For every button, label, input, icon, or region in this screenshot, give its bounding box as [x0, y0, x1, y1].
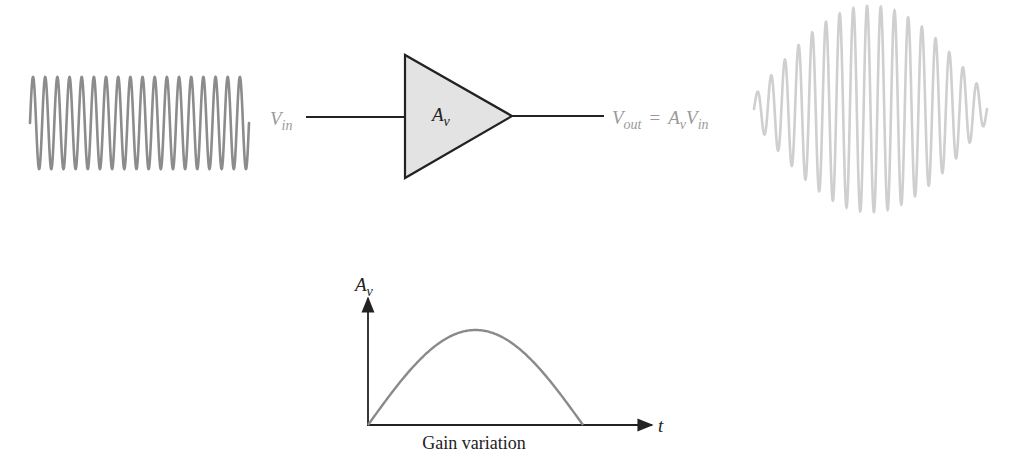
amplifier-gain-diagram: Vin Av Vout=AvVin Av t Gain variation	[0, 0, 1018, 459]
graph-caption: Gain variation	[422, 433, 525, 453]
y-label-main: A	[353, 274, 367, 295]
output-modulated-wave	[754, 6, 987, 212]
y-axis-label: Av	[353, 274, 374, 299]
y-label-sub: v	[367, 284, 374, 299]
amp-label-main: A	[430, 104, 444, 125]
rhs-gain-main: A	[666, 107, 680, 128]
output-voltage-equation: Vout=AvVin	[612, 107, 709, 132]
input-sine-wave	[30, 77, 249, 169]
amplifier-triangle	[405, 55, 512, 178]
gain-curve	[368, 330, 583, 425]
input-voltage-label: Vin	[270, 108, 293, 133]
gain-variation-graph: Av t Gain variation	[353, 274, 664, 453]
amp-label-sub: v	[444, 114, 451, 129]
rhs-vin-sub: in	[698, 117, 709, 132]
equals-sign: =	[650, 107, 661, 128]
input-label-sub: in	[282, 118, 293, 133]
x-axis-label: t	[658, 415, 664, 436]
out-label-sub: out	[624, 117, 643, 132]
